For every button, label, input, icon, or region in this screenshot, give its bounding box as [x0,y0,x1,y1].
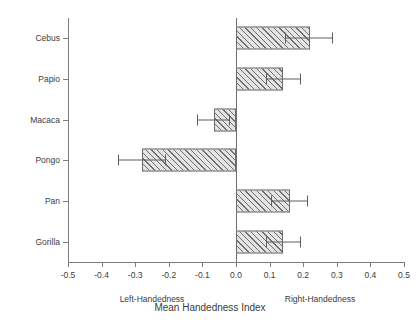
category-label-papio: Papio [38,74,60,84]
error-bar-line-macaca [197,119,229,120]
error-bar-cap-low [266,73,267,84]
x-axis-tick-label: 0.2 [297,270,309,280]
category-label-pan: Pan [45,196,60,206]
x-axis-tick [404,262,405,267]
category-label-gorilla: Gorilla [35,237,60,247]
x-axis-tick [370,262,371,267]
x-axis-tick [102,262,103,267]
error-bar-cap-high [229,114,230,125]
handedness-bar-chart: CebusPapioMacacaPongoPanGorilla -0.5-0.4… [0,0,420,327]
category-label-cebus: Cebus [35,33,60,43]
x-axis-tick-label: 0.3 [331,270,343,280]
x-axis-tick-label: -0.1 [195,270,210,280]
error-bar-line-gorilla [266,241,300,242]
bar-row: Cebus [68,18,404,59]
x-axis-tick [135,262,136,267]
error-bar-cap-high [307,195,308,206]
error-bar-cap-low [197,114,198,125]
error-bar-cap-high [300,73,301,84]
x-axis-tick-label: 0.0 [230,270,242,280]
x-axis-tick [169,262,170,267]
bar-row: Pan [68,181,404,222]
x-axis-tick [68,262,69,267]
x-axis-tick [270,262,271,267]
error-bar-line-papio [266,78,300,79]
y-axis-tick [63,242,68,243]
x-axis-tick-label: -0.3 [128,270,143,280]
y-axis-tick [63,38,68,39]
error-bar-cap-low [271,195,272,206]
bar-row: Papio [68,59,404,100]
category-label-macaca: Macaca [30,115,60,125]
error-bar-cap-high [165,155,166,166]
x-axis-tick [236,262,237,267]
plot-area: CebusPapioMacacaPongoPanGorilla -0.5-0.4… [68,18,404,262]
error-bar-cap-high [332,33,333,44]
error-bar-cap-high [300,236,301,247]
x-axis-tick-label: -0.5 [61,270,76,280]
x-axis-tick [202,262,203,267]
error-bar-cap-low [266,236,267,247]
x-axis-tick-label: -0.4 [94,270,109,280]
x-axis-tick [337,262,338,267]
category-label-pongo: Pongo [35,155,60,165]
x-axis-tick [303,262,304,267]
y-axis-tick [63,160,68,161]
error-bar-line-cebus [285,38,332,39]
bar-row: Macaca [68,99,404,140]
x-axis-tick-label: 0.5 [398,270,410,280]
error-bar-line-pongo [118,160,165,161]
bar-row: Gorilla [68,221,404,262]
x-axis-tick-label: 0.4 [364,270,376,280]
x-axis-tick-label: -0.2 [161,270,176,280]
error-bar-cap-low [285,33,286,44]
x-axis-tick-label: 0.1 [264,270,276,280]
y-axis-tick [63,201,68,202]
y-axis-tick [63,79,68,80]
error-bar-cap-low [118,155,119,166]
y-axis-tick [63,120,68,121]
x-axis-title: Mean Handedness Index [0,302,420,313]
bar-row: Pongo [68,140,404,181]
error-bar-line-pan [271,200,306,201]
